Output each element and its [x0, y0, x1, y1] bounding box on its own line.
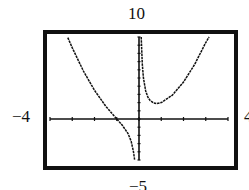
ymin-label: −5: [129, 178, 147, 190]
window-frame: [45, 32, 236, 168]
xmin-label: −4: [12, 108, 30, 125]
xmax-label: 4: [244, 108, 249, 125]
ymax-label: 10: [128, 5, 145, 22]
graph-window: [0, 0, 249, 190]
